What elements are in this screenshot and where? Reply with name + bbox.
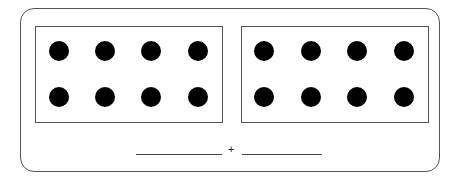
- dot-icon: [301, 41, 321, 61]
- right-answer-blank[interactable]: [242, 154, 322, 155]
- dot-icon: [254, 87, 274, 107]
- plus-sign: +: [228, 143, 234, 155]
- dot-icon: [394, 41, 414, 61]
- dot-icon: [347, 87, 367, 107]
- dot-icon: [141, 41, 161, 61]
- dot-icon: [141, 87, 161, 107]
- dot-icon: [95, 87, 115, 107]
- dot-icon: [188, 87, 208, 107]
- dot-icon: [49, 41, 69, 61]
- dot-icon: [347, 41, 367, 61]
- dot-icon: [301, 87, 321, 107]
- dot-icon: [95, 41, 115, 61]
- dot-icon: [254, 41, 274, 61]
- left-answer-blank[interactable]: [136, 154, 222, 155]
- dot-icon: [49, 87, 69, 107]
- dot-icon: [188, 41, 208, 61]
- dot-icon: [394, 87, 414, 107]
